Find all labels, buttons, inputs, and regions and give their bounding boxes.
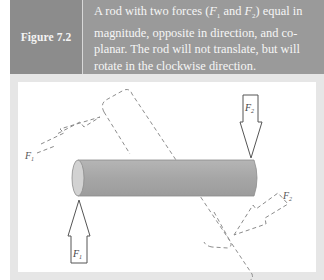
dashed-f1-arrow [37,117,100,153]
rod [72,160,257,196]
rod-diagram: F1 F2 F1 F2 [0,0,324,280]
dashed-f1-label: F1 [24,150,34,162]
dashed-f2-label: F2 [282,190,292,202]
dashed-f2-arrow [234,193,288,235]
